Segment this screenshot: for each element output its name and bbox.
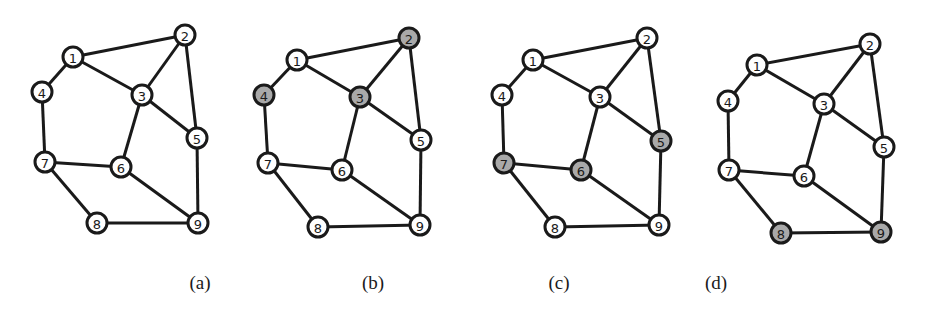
graph-node-3: 3 bbox=[132, 85, 152, 105]
svg-text:6: 6 bbox=[577, 164, 585, 179]
graph-node-8: 8 bbox=[771, 223, 791, 243]
svg-text:2: 2 bbox=[405, 32, 413, 47]
graph-edge-1-2 bbox=[533, 38, 647, 60]
graph-node-4: 4 bbox=[718, 91, 738, 111]
graph-edge-7-6 bbox=[504, 163, 581, 170]
svg-text:6: 6 bbox=[117, 161, 125, 176]
panel-caption-b: (b) bbox=[362, 272, 384, 294]
graph-edge-6-9 bbox=[342, 170, 420, 225]
graph-edge-2-5 bbox=[409, 38, 421, 140]
graph-edge-7-8 bbox=[268, 163, 318, 227]
graph-node-6: 6 bbox=[332, 160, 352, 180]
svg-text:5: 5 bbox=[417, 134, 425, 149]
graph-node-8: 8 bbox=[308, 217, 328, 237]
graph-node-1: 1 bbox=[287, 50, 307, 70]
svg-text:2: 2 bbox=[643, 32, 651, 47]
graph-panel-c: 123456789 bbox=[492, 28, 671, 237]
svg-text:4: 4 bbox=[260, 89, 268, 104]
graph-node-7: 7 bbox=[494, 153, 514, 173]
svg-text:1: 1 bbox=[753, 59, 761, 74]
graph-node-8: 8 bbox=[87, 213, 107, 233]
panel-caption-c: (c) bbox=[548, 272, 569, 294]
graph-node-7: 7 bbox=[258, 153, 278, 173]
graph-node-9: 9 bbox=[188, 213, 208, 233]
svg-text:5: 5 bbox=[657, 135, 665, 150]
graph-edge-7-8 bbox=[504, 163, 555, 227]
graph-panel-a: 123456789 bbox=[32, 25, 208, 233]
graph-edge-1-2 bbox=[757, 44, 870, 65]
svg-text:7: 7 bbox=[41, 156, 49, 171]
graph-edge-8-9 bbox=[318, 225, 420, 227]
graph-node-3: 3 bbox=[350, 87, 370, 107]
graph-edge-1-3 bbox=[757, 65, 824, 104]
svg-text:7: 7 bbox=[264, 157, 272, 172]
graph-edge-5-9 bbox=[659, 141, 661, 225]
graph-node-5: 5 bbox=[187, 128, 207, 148]
graph-node-9: 9 bbox=[649, 215, 669, 235]
graph-node-6: 6 bbox=[111, 157, 131, 177]
svg-text:2: 2 bbox=[181, 29, 189, 44]
svg-text:9: 9 bbox=[194, 217, 202, 232]
svg-text:5: 5 bbox=[193, 132, 201, 147]
graph-node-9: 9 bbox=[871, 222, 891, 242]
svg-text:3: 3 bbox=[596, 91, 604, 106]
graph-diagram: 123456789123456789123456789123456789 bbox=[0, 0, 925, 313]
graph-panel-b: 123456789 bbox=[254, 28, 431, 237]
graph-node-5: 5 bbox=[874, 137, 894, 157]
graph-node-4: 4 bbox=[32, 82, 52, 102]
svg-text:6: 6 bbox=[800, 170, 808, 185]
graph-edge-1-2 bbox=[73, 35, 185, 57]
svg-text:5: 5 bbox=[880, 141, 888, 156]
panel-caption-a: (a) bbox=[189, 272, 210, 294]
graph-node-3: 3 bbox=[814, 94, 834, 114]
graph-panel-d: 123456789 bbox=[718, 34, 894, 243]
graph-edge-8-9 bbox=[781, 232, 881, 233]
graph-edge-5-9 bbox=[881, 147, 884, 232]
graph-node-1: 1 bbox=[63, 47, 83, 67]
svg-text:4: 4 bbox=[724, 95, 732, 110]
svg-text:3: 3 bbox=[356, 91, 364, 106]
svg-text:2: 2 bbox=[866, 38, 874, 53]
svg-text:9: 9 bbox=[877, 226, 885, 241]
graph-node-4: 4 bbox=[492, 85, 512, 105]
graph-node-4: 4 bbox=[254, 85, 274, 105]
graph-edge-6-9 bbox=[581, 170, 659, 225]
graph-node-7: 7 bbox=[35, 152, 55, 172]
graph-node-8: 8 bbox=[545, 217, 565, 237]
svg-text:1: 1 bbox=[529, 54, 537, 69]
graph-edge-2-5 bbox=[185, 35, 197, 138]
graph-node-5: 5 bbox=[411, 130, 431, 150]
graph-edge-2-5 bbox=[870, 44, 884, 147]
graph-edge-5-9 bbox=[197, 138, 198, 223]
panel-caption-d: (d) bbox=[705, 272, 727, 294]
svg-text:8: 8 bbox=[777, 227, 785, 242]
graph-node-6: 6 bbox=[794, 166, 814, 186]
svg-text:8: 8 bbox=[93, 217, 101, 232]
graph-node-1: 1 bbox=[523, 50, 543, 70]
graph-edge-1-3 bbox=[73, 57, 142, 95]
svg-text:1: 1 bbox=[293, 54, 301, 69]
svg-text:9: 9 bbox=[416, 219, 424, 234]
graph-node-7: 7 bbox=[719, 160, 739, 180]
graph-node-3: 3 bbox=[590, 87, 610, 107]
svg-text:1: 1 bbox=[69, 51, 77, 66]
graph-node-5: 5 bbox=[651, 131, 671, 151]
graph-node-9: 9 bbox=[410, 215, 430, 235]
svg-text:9: 9 bbox=[655, 219, 663, 234]
graph-node-2: 2 bbox=[860, 34, 880, 54]
graph-edge-5-9 bbox=[420, 140, 421, 225]
graph-node-1: 1 bbox=[747, 55, 767, 75]
svg-text:7: 7 bbox=[725, 164, 733, 179]
graph-edge-8-9 bbox=[555, 225, 659, 227]
svg-text:3: 3 bbox=[820, 98, 828, 113]
graph-node-2: 2 bbox=[399, 28, 419, 48]
svg-text:6: 6 bbox=[338, 164, 346, 179]
graph-edge-7-8 bbox=[45, 162, 97, 223]
graph-node-6: 6 bbox=[571, 160, 591, 180]
graph-edge-6-9 bbox=[121, 167, 198, 223]
svg-text:8: 8 bbox=[314, 221, 322, 236]
graph-node-2: 2 bbox=[175, 25, 195, 45]
graph-edge-2-5 bbox=[647, 38, 661, 141]
graph-edge-7-8 bbox=[729, 170, 781, 233]
svg-text:8: 8 bbox=[551, 221, 559, 236]
